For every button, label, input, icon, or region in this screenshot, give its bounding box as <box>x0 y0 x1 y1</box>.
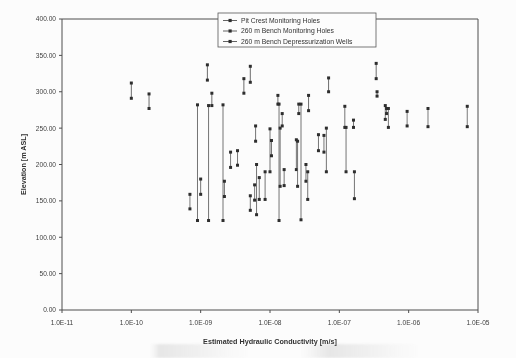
data-point-marker <box>385 112 388 115</box>
y-tick-label: 400.00 <box>36 15 57 22</box>
y-axis-tick-labels: 0.0050.00100.00150.00200.00250.00300.003… <box>36 15 57 313</box>
data-point-marker <box>223 180 226 183</box>
y-tick-label: 300.00 <box>36 88 57 95</box>
legend-marker-icon <box>229 29 232 32</box>
data-point-marker <box>384 118 387 121</box>
y-tick-label: 50.00 <box>39 270 56 277</box>
hydraulic-conductivity-chart: 0.0050.00100.00150.00200.00250.00300.003… <box>0 0 516 358</box>
data-point-marker <box>258 176 261 179</box>
data-point-marker <box>255 213 258 216</box>
data-point-marker <box>269 127 272 130</box>
data-point-marker <box>206 63 209 66</box>
data-point-marker <box>325 127 328 130</box>
data-point-marker <box>387 107 390 110</box>
x-axis-title: Estimated Hydraulic Conductivity [m/s] <box>203 337 337 346</box>
data-point-marker <box>304 163 307 166</box>
data-point-marker <box>278 103 281 106</box>
data-point-marker <box>249 65 252 68</box>
data-series <box>130 62 379 115</box>
data-point-marker <box>207 104 210 107</box>
data-point-marker <box>264 170 267 173</box>
data-point-marker <box>229 166 232 169</box>
data-point-marker <box>300 103 303 106</box>
data-point-marker <box>352 119 355 122</box>
x-tick-label: 1.0E-05 <box>466 319 489 326</box>
data-point-marker <box>375 62 378 65</box>
data-point-marker <box>148 107 151 110</box>
data-point-marker <box>278 219 281 222</box>
data-point-marker <box>307 94 310 97</box>
data-point-marker <box>325 170 328 173</box>
data-point-marker <box>264 198 267 201</box>
data-point-marker <box>207 219 210 222</box>
x-tick-label: 1.0E-11 <box>51 319 74 326</box>
data-point-marker <box>387 126 390 129</box>
data-series-layer <box>130 62 469 222</box>
y-tick-label: 100.00 <box>36 234 57 241</box>
data-point-marker <box>426 107 429 110</box>
data-point-marker <box>236 149 239 152</box>
data-point-marker <box>345 126 348 129</box>
data-point-marker <box>384 104 387 107</box>
legend-marker-icon <box>229 19 232 22</box>
data-point-marker <box>327 76 330 79</box>
data-point-marker <box>296 140 299 143</box>
data-point-marker <box>196 219 199 222</box>
data-point-marker <box>300 218 303 221</box>
data-point-marker <box>269 170 272 173</box>
data-point-marker <box>353 170 356 173</box>
data-point-marker <box>296 185 299 188</box>
data-point-marker <box>352 126 355 129</box>
legend-entry-label: 260 m Bench Depressurization Wells <box>241 38 353 46</box>
chart-canvas: 0.0050.00100.00150.00200.00250.00300.003… <box>0 0 516 358</box>
data-point-marker <box>199 178 202 181</box>
chart-legend: Pit Crest Monitoring Holes260 m Bench Mo… <box>218 13 376 47</box>
data-point-marker <box>406 124 409 127</box>
y-tick-label: 200.00 <box>36 161 57 168</box>
data-point-marker <box>376 90 379 93</box>
data-point-marker <box>283 184 286 187</box>
data-point-marker <box>188 207 191 210</box>
data-point-marker <box>222 103 225 106</box>
data-point-marker <box>196 103 199 106</box>
x-axis-tick-labels: 1.0E-111.0E-101.0E-091.0E-081.0E-071.0E-… <box>51 319 490 326</box>
data-point-marker <box>375 77 378 80</box>
data-point-marker <box>270 154 273 157</box>
x-tick-label: 1.0E-08 <box>258 319 281 326</box>
data-point-marker <box>466 105 469 108</box>
data-point-marker <box>210 92 213 95</box>
data-point-marker <box>236 164 239 167</box>
x-tick-label: 1.0E-09 <box>189 319 212 326</box>
data-point-marker <box>242 77 245 80</box>
x-tick-label: 1.0E-06 <box>397 319 420 326</box>
y-tick-label: 150.00 <box>36 197 57 204</box>
data-point-marker <box>188 193 191 196</box>
legend-entry-label: 260 m Bench Monitoring Holes <box>241 27 335 35</box>
data-point-marker <box>249 209 252 212</box>
legend-entry-label: Pit Crest Monitoring Holes <box>241 17 321 25</box>
data-point-marker <box>276 94 279 97</box>
data-point-marker <box>317 149 320 152</box>
data-point-marker <box>376 95 379 98</box>
data-point-marker <box>353 197 356 200</box>
data-point-marker <box>130 97 133 100</box>
data-point-marker <box>466 125 469 128</box>
data-point-marker <box>253 183 256 186</box>
data-point-marker <box>343 105 346 108</box>
data-point-marker <box>270 139 273 142</box>
data-series <box>188 104 468 210</box>
data-point-marker <box>229 151 232 154</box>
data-point-marker <box>210 104 213 107</box>
data-point-marker <box>281 124 284 127</box>
data-point-marker <box>327 90 330 93</box>
data-point-marker <box>281 112 284 115</box>
data-point-marker <box>254 124 257 127</box>
data-point-marker <box>199 193 202 196</box>
y-tick-label: 350.00 <box>36 52 57 59</box>
data-point-marker <box>242 92 245 95</box>
data-point-marker <box>249 81 252 84</box>
data-point-marker <box>297 112 300 115</box>
x-tick-label: 1.0E-07 <box>328 319 351 326</box>
y-tick-label: 0.00 <box>43 306 56 313</box>
data-point-marker <box>304 180 307 183</box>
